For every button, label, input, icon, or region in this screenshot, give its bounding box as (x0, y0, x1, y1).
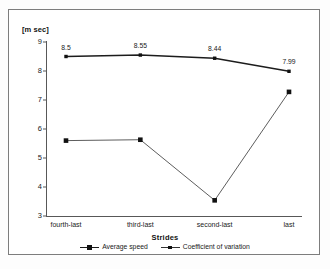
y-axis-tick-mark (43, 129, 46, 130)
y-axis-tick-mark (43, 158, 46, 159)
plot-area: 3456789 (46, 42, 301, 216)
legend-label: Coefficient of variation (183, 244, 250, 251)
legend-entry[interactable]: Coefficient of variation (161, 244, 250, 251)
y-axis-tick-mark (43, 187, 46, 188)
x-axis-line (46, 216, 302, 217)
data-point-label: 8.44 (208, 46, 221, 53)
data-point-label: 8.5 (61, 45, 70, 52)
y-axis-tick-mark (43, 71, 46, 72)
y-axis-title: [m sec] (22, 25, 49, 34)
x-axis-tick: last (284, 221, 295, 228)
chart-legend: Average speedCoefficient of variation (0, 244, 330, 251)
x-axis-tick: fourth-last (50, 221, 81, 228)
legend-swatch-icon (161, 244, 180, 251)
x-axis-tick: second-last (197, 221, 233, 228)
legend-entry[interactable]: Average speed (80, 244, 148, 251)
y-axis-tick-mark (43, 42, 46, 43)
data-point-label: 7.99 (282, 59, 295, 66)
legend-label: Average speed (102, 244, 148, 251)
y-axis-tick-mark (43, 100, 46, 101)
data-point-label: 8.55 (134, 43, 147, 50)
y-axis-tick-mark (43, 216, 46, 217)
chart-figure: [m sec] 3456789 fourth-lastthird-lastsec… (0, 0, 330, 269)
x-axis-title: Strides (0, 233, 330, 242)
legend-swatch-icon (80, 244, 99, 251)
x-axis-tick: third-last (127, 221, 154, 228)
